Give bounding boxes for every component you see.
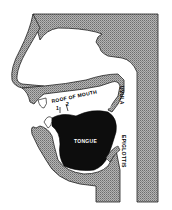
label-epiglottis: EPIGLOTTIS [121, 135, 127, 168]
label-marker-2: 2 [66, 101, 69, 107]
lower-teeth [44, 117, 52, 128]
label-marker-1: 1 [56, 105, 59, 111]
label-tongue: TONGUE [74, 138, 97, 144]
mouth-diagram: ROOF OF MOUTH 1 2 UVULA EPIGLOTTIS TONGU… [0, 0, 172, 210]
label-uvula: UVULA [119, 86, 125, 105]
upper-teeth [38, 98, 47, 108]
